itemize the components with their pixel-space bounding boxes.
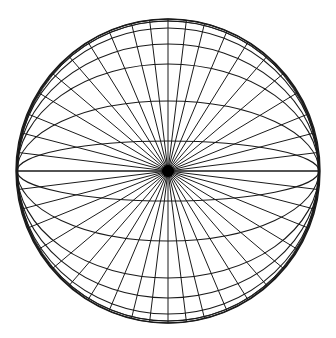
meridian-line bbox=[168, 56, 267, 171]
meridian-line bbox=[39, 93, 168, 171]
sphere-wireframe-figure bbox=[0, 0, 336, 338]
meridian-line bbox=[69, 171, 168, 286]
meridian-line bbox=[168, 171, 248, 300]
meridian-line bbox=[168, 93, 297, 171]
sphere-wireframe bbox=[0, 0, 336, 338]
meridian-line bbox=[69, 56, 168, 171]
meridian-line bbox=[168, 171, 297, 249]
meridian-line bbox=[88, 171, 168, 300]
meridian-line bbox=[168, 171, 267, 286]
meridian-line bbox=[39, 171, 168, 249]
meridian-line bbox=[88, 42, 168, 171]
pole-dot bbox=[162, 165, 174, 177]
meridian-line bbox=[168, 42, 248, 171]
